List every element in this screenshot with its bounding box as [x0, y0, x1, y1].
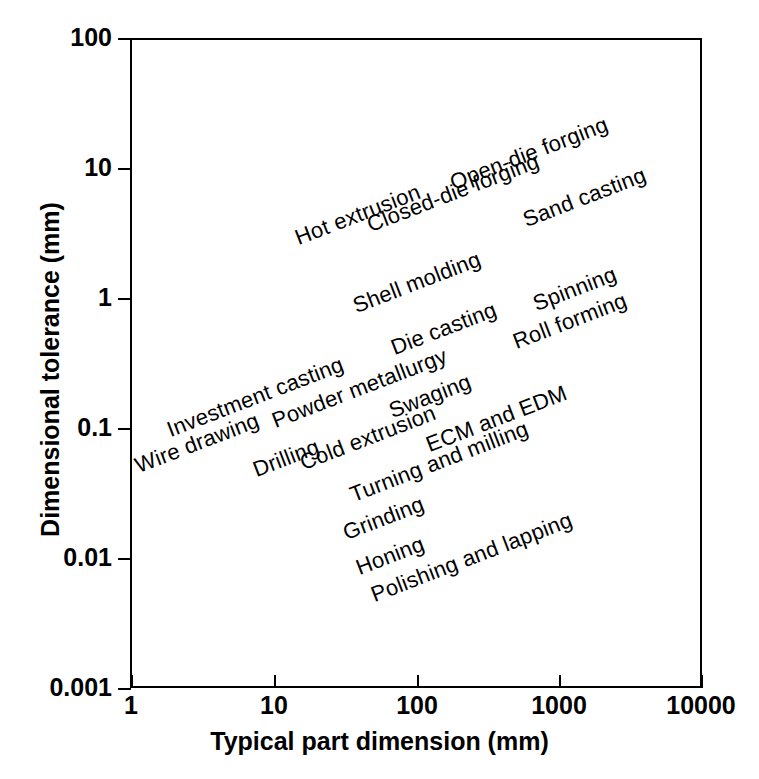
chart-figure: 1001010.10.010.001 110100100010000 Hot e…	[0, 0, 759, 779]
y-tick-label: 0.001	[0, 675, 112, 700]
x-tick-label: 10000	[666, 692, 736, 719]
y-tick-mark	[118, 688, 131, 690]
x-tick-mark	[274, 675, 276, 688]
x-tick-mark	[559, 675, 561, 688]
y-tick-mark	[118, 38, 131, 40]
y-tick-label: 100	[0, 25, 112, 50]
x-tick-mark	[417, 675, 419, 688]
y-tick-mark	[118, 558, 131, 560]
x-tick-label: 100	[396, 692, 438, 719]
x-tick-label: 10	[260, 692, 288, 719]
x-axis-title: Typical part dimension (mm)	[0, 727, 759, 756]
y-tick-mark	[118, 298, 131, 300]
y-axis-title: Dimensional tolerance (mm)	[36, 90, 65, 650]
x-tick-mark	[131, 675, 133, 688]
y-tick-mark	[118, 428, 131, 430]
y-tick-mark	[118, 168, 131, 170]
x-tick-mark	[701, 675, 703, 688]
x-tick-label: 1	[124, 692, 138, 719]
x-tick-label: 1000	[531, 692, 587, 719]
